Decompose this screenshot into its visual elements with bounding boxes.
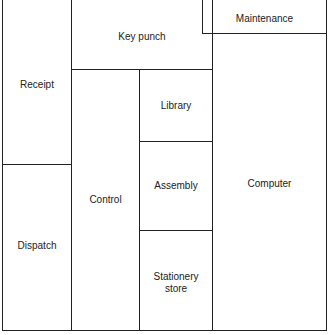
- room-dispatch: Dispatch: [2, 164, 72, 331]
- room-label-control: Control: [72, 194, 139, 206]
- room-key-punch: Key punch: [71, 0, 213, 70]
- room-computer: Computer: [212, 33, 327, 331]
- room-stationery-store: Stationery store: [139, 230, 213, 331]
- room-label-stationery-store: Stationery store: [140, 271, 212, 295]
- room-label-key-punch: Key punch: [72, 31, 212, 43]
- room-assembly: Assembly: [139, 141, 213, 231]
- room-library: Library: [139, 69, 213, 142]
- room-label-stationery-line1: Stationery: [153, 271, 198, 282]
- room-label-computer: Computer: [213, 178, 326, 190]
- room-label-assembly: Assembly: [140, 180, 212, 192]
- room-label-dispatch: Dispatch: [3, 240, 71, 252]
- room-label-receipt: Receipt: [3, 79, 71, 91]
- room-label-library: Library: [140, 100, 212, 112]
- room-control: Control: [71, 69, 140, 331]
- room-maintenance: Maintenance: [202, 0, 327, 34]
- room-receipt: Receipt: [2, 0, 72, 165]
- room-label-maintenance: Maintenance: [203, 13, 326, 25]
- room-label-stationery-line2: store: [165, 283, 187, 294]
